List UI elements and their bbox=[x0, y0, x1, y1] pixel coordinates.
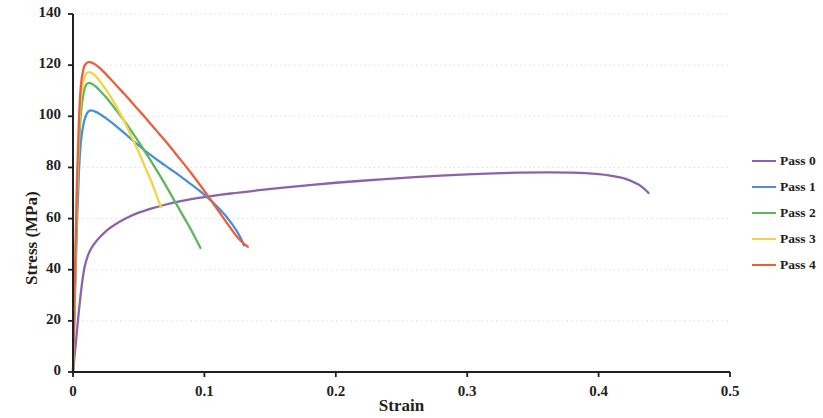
legend-item: Pass 3 bbox=[752, 226, 822, 252]
legend-color-swatch bbox=[752, 264, 776, 267]
legend-item: Pass 2 bbox=[752, 200, 822, 226]
curve-pass-1 bbox=[73, 110, 244, 372]
y-axis-label: Stress (MPa) bbox=[22, 191, 42, 285]
gridlines bbox=[73, 14, 730, 321]
legend-item: Pass 4 bbox=[752, 252, 822, 278]
axis-lines bbox=[73, 14, 730, 372]
curve-pass-4 bbox=[73, 62, 248, 372]
legend-color-swatch bbox=[752, 160, 776, 163]
y-tick-label: 140 bbox=[0, 4, 61, 21]
y-tick-label: 0 bbox=[0, 362, 61, 379]
plot-area bbox=[0, 0, 823, 418]
legend-color-swatch bbox=[752, 238, 776, 241]
legend-item-label: Pass 3 bbox=[780, 232, 816, 246]
legend-item: Pass 0 bbox=[752, 148, 822, 174]
legend-color-swatch bbox=[752, 186, 776, 189]
data-curves bbox=[73, 62, 649, 372]
legend-item-label: Pass 0 bbox=[780, 154, 816, 168]
y-tick-label: 100 bbox=[0, 106, 61, 123]
axis-ticks bbox=[68, 14, 730, 377]
y-tick-label: 80 bbox=[0, 157, 61, 174]
x-axis-label: Strain bbox=[0, 396, 803, 416]
curve-pass-2 bbox=[73, 83, 200, 372]
legend: Pass 0Pass 1Pass 2Pass 3Pass 4 bbox=[752, 148, 822, 278]
legend-item-label: Pass 4 bbox=[780, 258, 816, 272]
legend-item-label: Pass 2 bbox=[780, 206, 816, 220]
legend-item-label: Pass 1 bbox=[780, 180, 816, 194]
y-tick-label: 120 bbox=[0, 55, 61, 72]
stress-strain-chart: 020406080100120140 00.10.20.30.40.5 Stre… bbox=[0, 0, 823, 418]
legend-item: Pass 1 bbox=[752, 174, 822, 200]
y-tick-label: 20 bbox=[0, 311, 61, 328]
legend-color-swatch bbox=[752, 212, 776, 215]
